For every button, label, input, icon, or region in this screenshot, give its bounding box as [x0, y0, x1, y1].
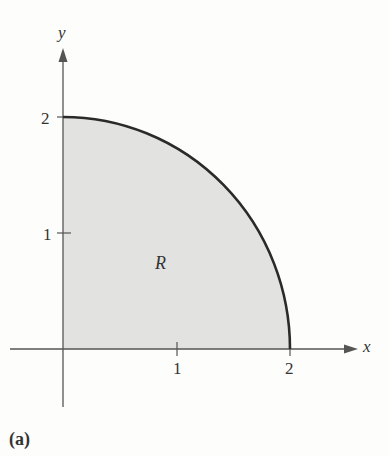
y-tick-label-2: 2 [41, 110, 50, 127]
y-axis-label: y [58, 24, 66, 41]
x-tick-label-1: 1 [173, 360, 182, 377]
diagram-canvas [0, 0, 389, 456]
figure-label: (a) [9, 430, 30, 448]
y-tick-label-1: 1 [43, 226, 52, 243]
x-tick-label-2: 2 [285, 360, 294, 377]
region-r-fill [63, 117, 290, 349]
region-label: R [155, 254, 166, 272]
y-axis-arrow-icon [59, 48, 68, 62]
x-axis-arrow-icon [344, 345, 358, 354]
x-axis-label: x [363, 338, 371, 355]
